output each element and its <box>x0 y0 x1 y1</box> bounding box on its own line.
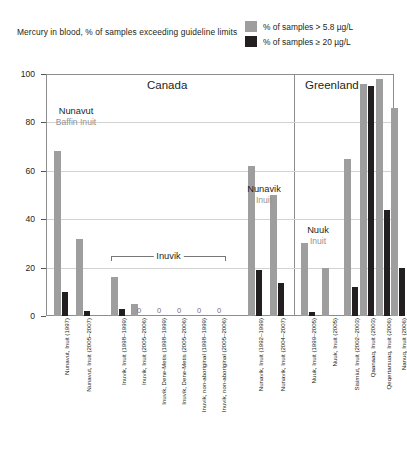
y-tick-label: 40 <box>25 214 35 224</box>
bracket-tick <box>111 256 112 261</box>
inuvik-bracket-label: Inuvik <box>153 251 183 261</box>
x-axis-tick-label: Inuvik, Inuit (2005–2006) <box>141 318 148 385</box>
legend-swatch-gray-icon <box>245 21 257 32</box>
bar-black <box>399 268 405 316</box>
legend-label-black: % of samples ≥ 20 µg/L <box>263 37 351 47</box>
zero-data-label: 0 <box>157 306 161 315</box>
x-axis-tick-label: Nunavik, Inuit (2004–2007) <box>280 318 287 391</box>
y-tick-label: 100 <box>21 69 35 79</box>
bar-gray <box>391 108 398 316</box>
bar-gray <box>360 84 367 316</box>
x-axis-tick-label: Qeqertarsuaq, Inuit (2006) <box>386 318 393 389</box>
x-axis-tick-label: Nuuk, Inuit (1999–2005) <box>311 318 318 383</box>
y-tick-mark <box>41 316 46 317</box>
bar-black <box>309 312 315 316</box>
bar-black <box>119 309 125 316</box>
legend-item-gray: % of samples > 5.8 µg/L <box>245 19 353 34</box>
x-axis-tick-label: Qaanaaq, Inuit (2003) <box>370 318 377 377</box>
legend-swatch-black-icon <box>245 36 257 47</box>
zero-data-label: 0 <box>177 306 181 315</box>
chart-header: Mercury in blood, % of samples exceeding… <box>0 0 406 58</box>
group-annotation-secondary: Baffin Inuit <box>56 117 96 127</box>
group-annotation: NuukInuit <box>307 225 329 246</box>
bar-gray <box>76 239 83 316</box>
x-axis-tick-label: Sisimiut, Inuit (2002–2003) <box>354 318 361 391</box>
bar-black <box>384 210 390 316</box>
bracket-tick <box>225 256 226 261</box>
bar-black <box>84 311 90 316</box>
x-axis-tick-label: Nanuq, Inuit (2006) <box>401 318 407 370</box>
bar-gray <box>344 159 351 316</box>
legend-item-black: % of samples ≥ 20 µg/L <box>245 34 353 49</box>
x-axis-tick-label: Nunavik, Inuit (1992–1999) <box>258 318 265 391</box>
x-axis-tick-label: Inuvik, non-aboriginal (2005–2006) <box>221 318 228 412</box>
chart-title: Mercury in blood, % of samples exceeding… <box>17 27 237 37</box>
group-annotation: NunavikInuit <box>247 184 281 205</box>
y-tick-label: 0 <box>30 311 35 321</box>
group-annotation-primary: Nunavik <box>247 184 281 195</box>
zero-data-label: 0 <box>217 306 221 315</box>
zero-data-label: 0 <box>197 306 201 315</box>
bar-gray <box>376 79 383 316</box>
bar-gray <box>270 195 277 316</box>
legend-label-gray: % of samples > 5.8 µg/L <box>263 22 353 32</box>
bar-black <box>62 292 68 316</box>
zero-data-label: 0 <box>137 306 141 315</box>
bar-gray <box>301 243 308 316</box>
bar-black <box>368 86 374 316</box>
y-tick-label: 60 <box>25 166 35 176</box>
y-tick-label: 20 <box>25 263 35 273</box>
bars-layer: 00000NunavutBaffin InuitNunavikInuitNuuk… <box>46 74 394 316</box>
group-annotation-primary: Nunavut <box>56 106 96 117</box>
x-axis-tick-label: Nunavut, Inuit (2005–2007) <box>86 318 93 392</box>
chart-legend: % of samples > 5.8 µg/L % of samples ≥ 2… <box>245 19 353 49</box>
bar-gray <box>322 268 329 316</box>
bar-gray <box>54 151 61 316</box>
bar-black <box>256 270 262 316</box>
x-axis-tick-label: Nuuk, Inuit (2005) <box>332 318 339 366</box>
x-axis-tick-label: Inuvik, Dene-Metis (1998–1999) <box>161 318 168 405</box>
group-annotation-secondary: Inuit <box>247 195 281 205</box>
bar-gray <box>111 277 118 316</box>
y-axis: 020406080100 <box>0 74 46 316</box>
group-annotation-primary: Nuuk <box>307 225 329 236</box>
x-axis-labels: Nunavut, Inuit (1997)Nunavut, Inuit (200… <box>46 318 394 458</box>
bar-black <box>352 287 358 316</box>
x-axis-tick-label: Inuvik, Inuit (1998–1999) <box>121 318 128 385</box>
group-annotation-secondary: Inuit <box>307 236 329 246</box>
x-axis-tick-label: Inuvik, non-aboriginal (1998–1999) <box>201 318 208 412</box>
y-tick-label: 80 <box>25 117 35 127</box>
x-axis-tick-label: Inuvik, Dene-Metis (2005–2006) <box>181 318 188 405</box>
bar-black <box>278 283 284 316</box>
x-axis-tick-label: Nunavut, Inuit (1997) <box>64 318 71 375</box>
group-annotation: NunavutBaffin Inuit <box>56 106 96 127</box>
